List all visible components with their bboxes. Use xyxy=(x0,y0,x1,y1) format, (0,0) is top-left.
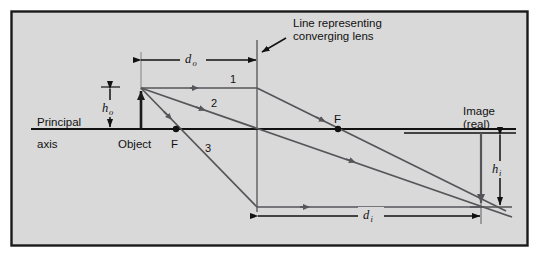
focal-point-right-label: F xyxy=(334,113,341,125)
focal-point-left-label: F xyxy=(171,138,178,150)
hi-label: h xyxy=(492,162,498,176)
principal-label: Principal xyxy=(37,116,81,128)
di-label: d xyxy=(363,208,370,222)
ray-2-label: 2 xyxy=(211,97,217,109)
ray-diagram-svg: d o d i h o h i Line representing conver… xyxy=(0,0,540,260)
focal-point-left-dot xyxy=(173,126,179,132)
ray-1-label: 1 xyxy=(230,73,236,85)
image-label-line1: Image xyxy=(463,105,495,117)
lens-callout-line1: Line representing xyxy=(293,17,382,29)
image-label-line2: (real) xyxy=(463,118,490,130)
lens-callout-line2: converging lens xyxy=(293,30,374,42)
axis-label: axis xyxy=(37,138,58,150)
do-label: d xyxy=(185,52,192,66)
object-label: Object xyxy=(118,138,152,150)
do-label-subscript: o xyxy=(193,58,197,68)
ray-3-label: 3 xyxy=(205,142,211,154)
focal-point-right-dot xyxy=(335,126,341,132)
ho-label-subscript: o xyxy=(109,107,113,117)
figure-container: d o d i h o h i Line representing conver… xyxy=(0,0,540,260)
ho-label: h xyxy=(102,101,108,115)
